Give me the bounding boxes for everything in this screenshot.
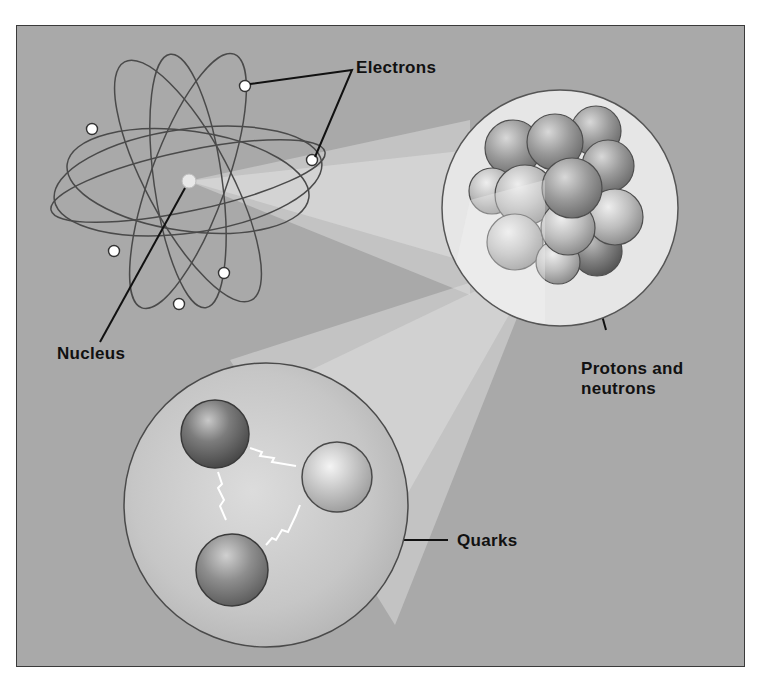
protons-neutrons-label-line2: neutrons <box>581 379 656 399</box>
electron <box>109 246 120 257</box>
electron <box>240 81 251 92</box>
nucleon <box>542 158 602 218</box>
zoom-beam-atom-to-nucleus <box>188 120 470 295</box>
atom-nucleus-dot <box>182 174 196 188</box>
nucleus-label: Nucleus <box>57 344 125 364</box>
quark <box>196 534 268 606</box>
electrons-leader <box>250 70 352 157</box>
electron <box>174 299 185 310</box>
quark <box>302 442 372 512</box>
protons-neutrons-label-line1: Protons and <box>581 359 683 379</box>
electron <box>219 268 230 279</box>
quarks-label: Quarks <box>457 531 517 551</box>
nucleon-magnified <box>124 363 408 647</box>
electron <box>87 124 98 135</box>
electrons-label: Electrons <box>356 58 436 78</box>
quark <box>181 400 249 468</box>
atom-structure-illustration <box>0 0 759 682</box>
